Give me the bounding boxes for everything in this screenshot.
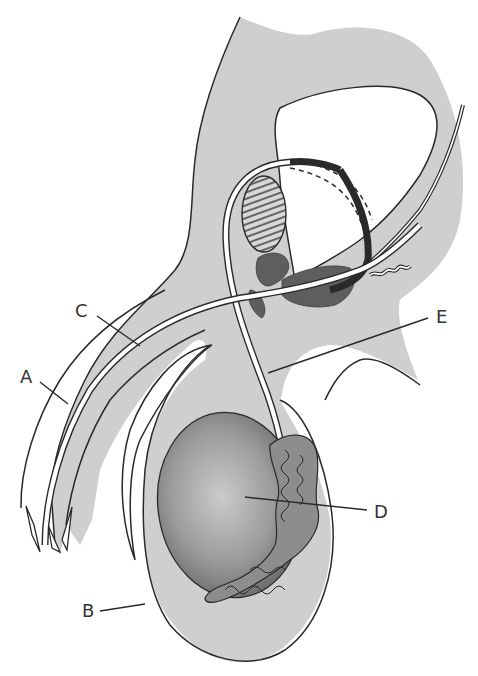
label-c: C <box>75 302 88 320</box>
pubic-bone <box>242 176 286 252</box>
leader-line-b <box>100 604 145 611</box>
label-b: B <box>82 602 94 620</box>
label-e: E <box>436 308 447 326</box>
leader-line-a <box>40 382 68 404</box>
label-a: A <box>20 368 32 386</box>
label-d: D <box>374 503 388 521</box>
reproductive-system-diagram <box>0 0 478 676</box>
